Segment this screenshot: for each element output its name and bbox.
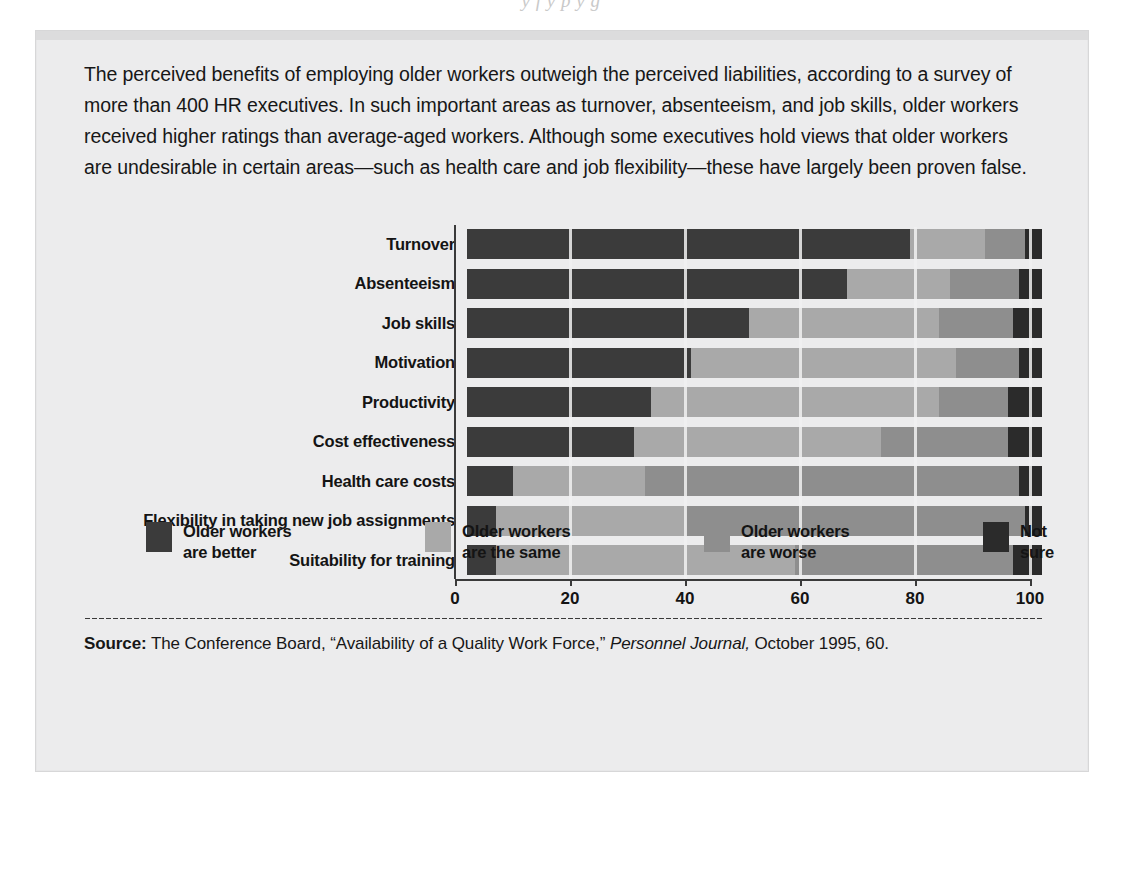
stacked-bar-chart: TurnoverAbsenteeismJob skillsMotivationP… bbox=[84, 227, 1042, 477]
page-top-cutoff-text: y f y p y g bbox=[0, 0, 1122, 12]
bar-segment-not-sure bbox=[1019, 466, 1042, 496]
bar-segment-better bbox=[467, 229, 910, 259]
bar-segment-not-sure bbox=[1025, 229, 1042, 259]
bar-category-label: Productivity bbox=[84, 393, 467, 412]
x-axis-tick-label: 40 bbox=[676, 589, 695, 609]
bar-segment-not-sure bbox=[1013, 308, 1042, 338]
bar-segment-not-sure bbox=[1019, 348, 1042, 378]
x-axis-tick bbox=[685, 579, 687, 586]
stacked-bar bbox=[467, 466, 1042, 496]
figure-root: y f y p y g The perceived benefits of em… bbox=[0, 0, 1122, 875]
legend-swatch-notsure bbox=[983, 522, 1009, 552]
x-axis-tick bbox=[1030, 579, 1032, 586]
legend-swatch-worse bbox=[704, 522, 730, 552]
bar-segment-same bbox=[749, 308, 939, 338]
legend-label: Not sure bbox=[1020, 521, 1054, 563]
bar-segment-worse bbox=[881, 427, 1008, 457]
bar-row: Health care costs bbox=[84, 464, 1042, 498]
bar-category-label: Job skills bbox=[84, 314, 467, 333]
bar-segment-same bbox=[910, 229, 985, 259]
bar-segment-worse bbox=[985, 229, 1025, 259]
legend-item-worse[interactable]: Older workers are worse bbox=[704, 521, 849, 563]
bar-segment-not-sure bbox=[1019, 269, 1042, 299]
source-journal: Personnel Journal, bbox=[610, 634, 750, 653]
x-axis-line bbox=[455, 579, 1032, 581]
bar-category-label: Health care costs bbox=[84, 472, 467, 491]
bar-segment-worse bbox=[950, 269, 1019, 299]
dotted-divider bbox=[84, 617, 1042, 620]
bar-segment-better bbox=[467, 308, 749, 338]
stacked-bar bbox=[467, 308, 1042, 338]
bar-segment-same bbox=[634, 427, 881, 457]
legend-item-better[interactable]: Older workers are better bbox=[146, 521, 291, 563]
bar-segment-better bbox=[467, 387, 651, 417]
legend-item-same[interactable]: Older workers are the same bbox=[425, 521, 570, 563]
bar-segment-not-sure bbox=[1008, 427, 1043, 457]
bar-row: Cost effectiveness bbox=[84, 425, 1042, 459]
stacked-bar bbox=[467, 229, 1042, 259]
bar-category-label: Turnover bbox=[84, 235, 467, 254]
stacked-bar bbox=[467, 348, 1042, 378]
x-axis-tick bbox=[455, 579, 457, 586]
stacked-bar bbox=[467, 269, 1042, 299]
figure-inner: The perceived benefits of employing olde… bbox=[84, 59, 1042, 749]
legend-label: Older workers are better bbox=[183, 521, 291, 563]
legend-swatch-same bbox=[425, 522, 451, 552]
stacked-bar bbox=[467, 387, 1042, 417]
bar-row: Motivation bbox=[84, 346, 1042, 380]
x-axis-tick-label: 0 bbox=[450, 589, 459, 609]
bar-category-label: Cost effectiveness bbox=[84, 432, 467, 451]
x-axis-tick bbox=[570, 579, 572, 586]
bar-segment-worse bbox=[939, 308, 1014, 338]
bar-segment-same bbox=[847, 269, 951, 299]
x-axis-tick-label: 80 bbox=[906, 589, 925, 609]
bar-row: Job skills bbox=[84, 306, 1042, 340]
bar-segment-same bbox=[651, 387, 939, 417]
bar-category-label: Motivation bbox=[84, 353, 467, 372]
stacked-bar bbox=[467, 427, 1042, 457]
bar-segment-worse bbox=[956, 348, 1019, 378]
bar-segment-better bbox=[467, 427, 634, 457]
bar-segment-better bbox=[467, 348, 691, 378]
source-note: Source: The Conference Board, “Availabil… bbox=[84, 634, 889, 654]
x-axis-tick-label: 60 bbox=[791, 589, 810, 609]
bar-segment-worse bbox=[939, 387, 1008, 417]
figure-panel: The perceived benefits of employing olde… bbox=[35, 30, 1089, 772]
bar-category-label: Absenteeism bbox=[84, 274, 467, 293]
bar-row: Turnover bbox=[84, 227, 1042, 261]
bar-segment-better bbox=[467, 466, 513, 496]
legend-label: Older workers are worse bbox=[741, 521, 849, 563]
legend-swatch-better bbox=[146, 522, 172, 552]
source-text-1: The Conference Board, “Availability of a… bbox=[147, 634, 610, 653]
x-axis-tick-label: 100 bbox=[1016, 589, 1044, 609]
x-axis-tick bbox=[915, 579, 917, 586]
bar-row: Absenteeism bbox=[84, 267, 1042, 301]
bar-segment-same bbox=[513, 466, 645, 496]
source-text-2: October 1995, 60. bbox=[750, 634, 889, 653]
intro-paragraph: The perceived benefits of employing olde… bbox=[84, 59, 1036, 183]
bar-segment-better bbox=[467, 269, 847, 299]
legend-label: Older workers are the same bbox=[462, 521, 570, 563]
bar-segment-worse bbox=[645, 466, 1019, 496]
legend-item-notsure[interactable]: Not sure bbox=[983, 521, 1054, 563]
x-axis-tick bbox=[800, 579, 802, 586]
x-axis-tick-label: 20 bbox=[561, 589, 580, 609]
bar-segment-same bbox=[691, 348, 956, 378]
bar-row: Productivity bbox=[84, 385, 1042, 419]
bar-segment-not-sure bbox=[1008, 387, 1043, 417]
source-label: Source: bbox=[84, 634, 147, 653]
